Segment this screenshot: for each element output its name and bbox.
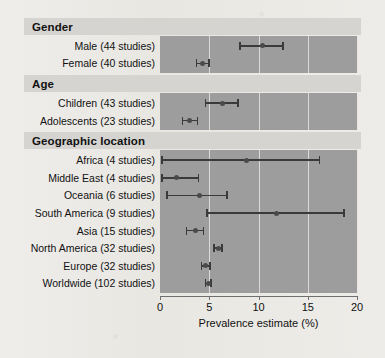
ci-lower-cap — [161, 174, 163, 182]
row-label: Middle East (4 studies) — [0, 172, 155, 184]
x-axis-tick-label: 10 — [244, 301, 274, 313]
confidence-interval-line — [162, 177, 198, 179]
x-axis-tick-label: 5 — [194, 301, 224, 313]
confidence-interval-line — [162, 159, 320, 161]
point-estimate-marker — [274, 211, 279, 216]
row-label: Asia (15 studies) — [0, 225, 155, 237]
gridline — [308, 93, 309, 130]
x-axis-tick — [308, 296, 309, 300]
row-label: Worldwide (102 studies) — [0, 277, 155, 289]
point-estimate-marker — [206, 281, 211, 286]
x-axis-title: Prevalence estimate (%) — [30, 317, 385, 329]
ci-lower-cap — [201, 262, 203, 270]
gridline — [308, 36, 309, 73]
ci-upper-cap — [208, 59, 210, 67]
row-label: Female (40 studies) — [0, 57, 155, 69]
gridline — [357, 150, 358, 293]
point-estimate-marker — [197, 193, 202, 198]
ci-upper-cap — [198, 174, 200, 182]
x-axis-tick-label: 15 — [293, 301, 323, 313]
ci-upper-cap — [197, 117, 199, 125]
ci-lower-cap — [166, 191, 168, 199]
ci-lower-cap — [205, 99, 207, 107]
gridline — [209, 93, 210, 130]
group-header-label: Gender — [32, 21, 73, 33]
gridline — [209, 150, 210, 293]
x-axis-tick — [357, 296, 358, 300]
x-axis-tick — [259, 296, 260, 300]
row-label: Europe (32 studies) — [0, 260, 155, 272]
point-estimate-marker — [244, 158, 249, 163]
ci-lower-cap — [213, 244, 215, 252]
row-label: South America (9 studies) — [0, 207, 155, 219]
row-label: North America (32 studies) — [0, 242, 155, 254]
ci-upper-cap — [282, 42, 284, 50]
ci-lower-cap — [239, 42, 241, 50]
ci-lower-cap — [161, 156, 163, 164]
group-header-label: Age — [32, 78, 54, 90]
ci-upper-cap — [237, 99, 239, 107]
gridline — [259, 93, 260, 130]
forest-plot-figure: GenderMale (44 studies)Female (40 studie… — [0, 0, 385, 358]
x-axis-tick-label: 20 — [342, 301, 372, 313]
gridline — [259, 36, 260, 73]
ci-upper-cap — [221, 244, 223, 252]
point-estimate-marker — [220, 101, 225, 106]
x-axis-tick — [209, 296, 210, 300]
ci-lower-cap — [186, 227, 188, 235]
row-label: Children (43 studies) — [0, 97, 155, 109]
row-label: Adolescents (23 studies) — [0, 115, 155, 127]
group-header-band — [24, 18, 361, 35]
ci-upper-cap — [343, 209, 345, 217]
row-label: Male (44 studies) — [0, 40, 155, 52]
ci-upper-cap — [226, 191, 228, 199]
gridline — [308, 150, 309, 293]
ci-lower-cap — [196, 59, 198, 67]
ci-upper-cap — [319, 156, 321, 164]
row-label: Oceania (6 studies) — [0, 189, 155, 201]
point-estimate-marker — [216, 246, 221, 251]
gridline — [357, 36, 358, 73]
ci-upper-cap — [203, 227, 205, 235]
x-axis-tick — [160, 296, 161, 300]
point-estimate-marker — [200, 61, 205, 66]
ci-upper-cap — [209, 262, 211, 270]
row-label: Africa (4 studies) — [0, 154, 155, 166]
gridline — [357, 93, 358, 130]
gridline — [209, 36, 210, 73]
gridline — [259, 150, 260, 293]
x-axis-tick-label: 0 — [145, 301, 175, 313]
group-header-label: Geographic location — [32, 135, 145, 147]
ci-lower-cap — [182, 117, 184, 125]
ci-lower-cap — [206, 209, 208, 217]
group-header-band — [24, 75, 361, 92]
